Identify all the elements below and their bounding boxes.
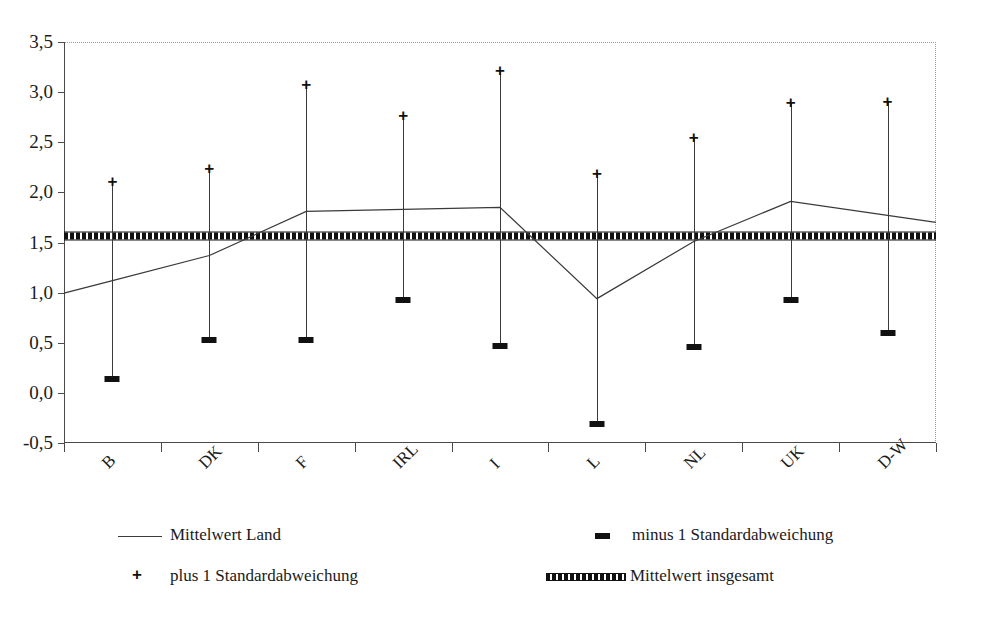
x-axis-tick-mark (645, 443, 646, 452)
x-axis-tick-mark (64, 443, 65, 452)
x-axis-tick-mark (839, 443, 840, 452)
x-axis-tick-mark (936, 443, 937, 452)
x-axis-tick-mark (161, 443, 162, 452)
legend-label: minus 1 Standardabweichung (632, 525, 833, 545)
x-axis-tick-mark (548, 443, 549, 452)
minus-sd-marker-i (493, 343, 508, 349)
x-axis-tick-label-f: F (292, 452, 313, 473)
x-axis-tick-label-uk: UK (777, 442, 809, 474)
plus-sd-marker-dk: + (204, 160, 214, 177)
plus-sd-marker-f: + (301, 76, 311, 93)
plus-sd-marker-nl: + (689, 129, 699, 146)
chart-canvas: -0,50,00,51,01,52,02,53,03,5 BDKFIRLILNL… (0, 0, 1005, 621)
x-axis-tick-mark (742, 443, 743, 452)
minus-sd-marker-nl (686, 344, 701, 350)
x-axis-tick-label-l: L (583, 452, 604, 473)
x-axis-tick-mark (355, 443, 356, 452)
x-axis-tick-label-irl: IRL (389, 440, 423, 474)
minus-icon (595, 533, 610, 539)
chart-title-clipped (170, 0, 590, 4)
minus-sd-marker-dk (202, 337, 217, 343)
x-axis-tick-label-i: I (486, 455, 504, 473)
x-axis-tick-label-nl: NL (680, 443, 710, 473)
x-axis-tick-mark (452, 443, 453, 452)
plot-area: -0,50,00,51,01,52,02,53,03,5 BDKFIRLILNL… (64, 42, 936, 443)
plus-sd-marker-b: + (107, 173, 117, 190)
minus-sd-marker-irl (396, 297, 411, 303)
minus-sd-marker-f (299, 337, 314, 343)
minus-sd-marker-uk (783, 297, 798, 303)
minus-sd-marker-l (589, 421, 604, 427)
legend-line-swatch (118, 536, 162, 537)
legend-label: plus 1 Standardabweichung (170, 566, 358, 586)
x-axis-tick-label-dk: DK (195, 442, 227, 474)
minus-sd-marker-d-w (880, 330, 895, 336)
plus-sd-marker-irl: + (398, 107, 408, 124)
legend-label: Mittelwert Land (170, 525, 281, 545)
legend-label: Mittelwert insgesamt (630, 566, 774, 586)
band-swatch (546, 573, 626, 581)
plus-sd-marker-l: + (592, 165, 602, 182)
plus-sd-marker-i: + (495, 62, 505, 79)
country-mean-line (64, 42, 936, 443)
x-axis-tick-label-b: B (98, 451, 120, 473)
chart-legend: Mittelwert Land minus 1 Standardabweichu… (0, 519, 1005, 619)
minus-sd-marker-b (105, 376, 120, 382)
plus-sd-marker-uk: + (786, 94, 796, 111)
mean-polyline (64, 201, 936, 298)
plus-sd-marker-d-w: + (883, 93, 893, 110)
plus-icon: + (132, 566, 142, 583)
x-axis-tick-mark (258, 443, 259, 452)
